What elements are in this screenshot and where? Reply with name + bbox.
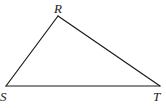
edge-tr bbox=[58, 16, 160, 86]
edge-rs bbox=[6, 16, 58, 86]
vertex-label-s: S bbox=[0, 89, 7, 104]
vertex-label-r: R bbox=[53, 1, 62, 16]
triangle-diagram: R S T bbox=[0, 0, 166, 108]
vertex-label-t: T bbox=[153, 89, 161, 104]
